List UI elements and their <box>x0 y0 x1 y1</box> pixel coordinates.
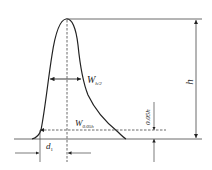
fraction-height-label: 0.05h <box>144 109 152 125</box>
distance-d1-label: d1 <box>46 141 54 152</box>
base-width-label: W0.05h <box>75 118 94 129</box>
peak-diagram: h Wh/2 W0.05h 0.05h d1 <box>0 0 212 170</box>
half-height-width-label: Wh/2 <box>87 74 102 86</box>
peak-height-label: h <box>183 79 195 85</box>
